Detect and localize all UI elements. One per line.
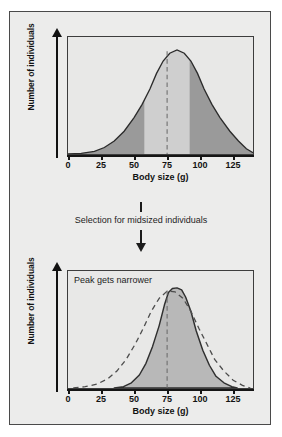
down-arrow-icon [136, 243, 146, 252]
x-axis-ticks-bottom: 0 25 50 75 100 125 [67, 390, 254, 402]
tick-label-50-top: 50 [121, 160, 147, 170]
bell-curve-after-solid [114, 288, 237, 388]
y-axis-arrow-icon-top [56, 36, 58, 158]
y-axis-label-top: Number of individuals [26, 12, 36, 122]
tick-label-0-top: 0 [55, 160, 81, 170]
tick-label-125-bottom: 125 [220, 394, 246, 404]
shaded-region-low-tail [68, 37, 145, 154]
tick-label-100-top: 100 [187, 160, 213, 170]
panel-after-selection: Number of individuals Peak gets narrower… [10, 252, 272, 420]
y-axis-label-bottom: Number of individuals [26, 246, 36, 356]
y-axis-arrow-icon-bottom [56, 270, 58, 392]
peak-narrower-note: Peak gets narrower [74, 275, 152, 285]
shaded-region-high-tail [190, 37, 253, 154]
distribution-before-svg [68, 37, 253, 154]
tick-label-50-bottom: 50 [121, 394, 147, 404]
tick-label-75-bottom: 75 [154, 394, 180, 404]
x-axis-ticks-top: 0 25 50 75 100 125 [67, 156, 254, 168]
tick-label-25-top: 25 [88, 160, 114, 170]
tick-label-125-top: 125 [220, 160, 246, 170]
plot-area-before [67, 36, 254, 155]
arrow-stem-upper [140, 202, 142, 212]
tick-label-75-top: 75 [154, 160, 180, 170]
tick-label-25-bottom: 25 [88, 394, 114, 404]
selection-caption: Selection for midsized individuals [10, 215, 272, 225]
distribution-after-svg [68, 271, 253, 388]
plot-area-after: Peak gets narrower [67, 270, 254, 389]
figure-container: Number of individuals [9, 11, 271, 425]
x-axis-label-bottom: Body size (g) [67, 406, 254, 416]
x-axis-label-top: Body size (g) [67, 172, 254, 182]
tick-label-0-bottom: 0 [55, 394, 81, 404]
tick-label-100-bottom: 100 [187, 394, 213, 404]
selection-annotation: Selection for midsized individuals [10, 202, 272, 254]
arrow-stem-lower [140, 230, 142, 244]
panel-before-selection: Number of individuals [10, 18, 272, 183]
